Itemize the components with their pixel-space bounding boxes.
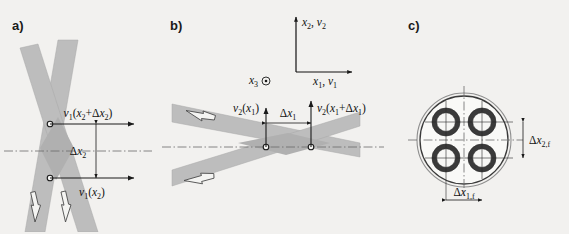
panel-b-label: b) [170,18,182,33]
panel-a-label: a) [12,18,24,33]
figure-root: a) v1(x2+Δx2) v1(x2) [0,0,569,234]
panel-c-label: c) [408,18,420,33]
figure-canvas: a) v1(x2+Δx2) v1(x2) [0,0,569,234]
x3-out-of-plane-dot-icon [265,80,268,83]
